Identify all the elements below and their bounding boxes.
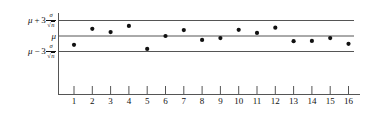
- x-axis-tick-label: 11: [253, 97, 262, 106]
- data-point: [182, 28, 186, 32]
- center-line-label: μ: [51, 30, 56, 42]
- data-point: [255, 31, 259, 35]
- data-point: [109, 30, 113, 34]
- data-point-group: [72, 24, 351, 51]
- x-axis-ticks: [74, 86, 349, 94]
- x-axis-tick-label: 12: [271, 97, 280, 106]
- data-point: [328, 36, 332, 40]
- x-axis-tick-label: 3: [108, 97, 113, 106]
- data-point: [163, 34, 167, 38]
- x-axis-tick-label: 4: [127, 97, 132, 106]
- x-axis-tick-label: 9: [218, 97, 223, 106]
- data-point: [310, 39, 314, 43]
- data-point: [237, 28, 241, 32]
- x-axis-tick-label: 15: [326, 97, 335, 106]
- data-point: [346, 42, 350, 46]
- lower-control-limit-label: μ−3σ√n: [28, 45, 56, 58]
- x-axis-tick-label: 14: [307, 97, 316, 106]
- x-axis-tick-label: 10: [234, 97, 243, 106]
- x-axis-tick-label: 16: [344, 97, 353, 106]
- x-axis-tick-label: 6: [163, 97, 168, 106]
- data-point: [127, 24, 131, 28]
- data-point: [200, 38, 204, 42]
- x-axis-tick-label: 8: [200, 97, 205, 106]
- x-axis-tick-label: 2: [90, 97, 95, 106]
- upper-control-limit-label: μ+3σ√n: [28, 14, 56, 27]
- data-point: [292, 39, 296, 43]
- control-chart: μ+3σ√n μ μ−3σ√n 12345678910111213141516: [0, 0, 369, 114]
- data-point: [90, 27, 94, 31]
- data-point: [72, 43, 76, 47]
- data-point: [145, 47, 149, 51]
- x-axis-tick-label: 13: [289, 97, 298, 106]
- x-axis-tick-label: 1: [72, 97, 77, 106]
- x-axis-tick-label: 5: [145, 97, 150, 106]
- data-point: [218, 36, 222, 40]
- data-point: [273, 26, 277, 30]
- x-axis-tick-label: 7: [182, 97, 187, 106]
